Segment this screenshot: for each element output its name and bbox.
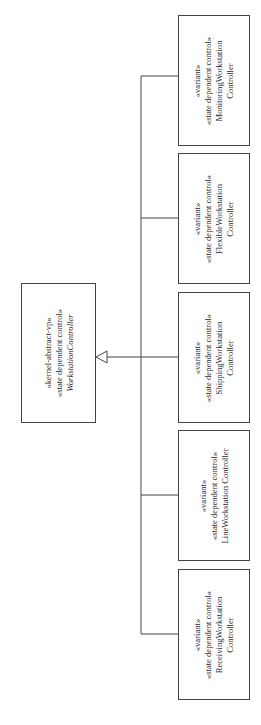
child-class-box-line[interactable]: «variant» «state dependent control» Line… xyxy=(178,430,250,561)
child-stereotype-1: «variant» xyxy=(198,448,209,543)
child-class-name: FlexibleWorkstation xyxy=(214,174,225,262)
child-class-name-cont: Controller xyxy=(225,36,236,124)
child-class-name: ShippingWorkstation xyxy=(214,313,225,401)
child-class-name-cont: Controller xyxy=(225,313,236,401)
child-stereotype-1: «variant» xyxy=(192,313,203,401)
child-class-box-shipping[interactable]: «variant» «state dependent control» Ship… xyxy=(178,292,250,423)
child-stereotype-1: «variant» xyxy=(192,174,203,262)
generalization-arrowhead-icon xyxy=(96,351,107,363)
child-stereotype-1: «variant» xyxy=(192,36,203,124)
child-class-box-receiving[interactable]: «variant» «state dependent control» Rece… xyxy=(178,569,250,700)
parent-class-name: WorkstationController xyxy=(64,309,75,397)
child-stereotype-1: «variant» xyxy=(192,590,203,678)
child-stereotype-2: «state dependent control» xyxy=(209,448,220,543)
child-class-name: LineWorkstation Controller xyxy=(220,448,231,543)
parent-class-box[interactable]: «kernel-abstract-vp» «state dependent co… xyxy=(21,283,96,423)
child-class-name: ReceivingWorkstation xyxy=(214,590,225,678)
child-stereotype-2: «state dependent control» xyxy=(203,36,214,124)
parent-stereotype-2: «state dependent control» xyxy=(53,309,64,397)
child-class-box-monitoring[interactable]: «variant» «state dependent control» Moni… xyxy=(178,15,250,146)
child-class-name-cont: Controller xyxy=(225,174,236,262)
child-class-box-flexible[interactable]: «variant» «state dependent control» Flex… xyxy=(178,153,250,284)
child-class-name-cont: Controller xyxy=(225,590,236,678)
child-stereotype-2: «state dependent control» xyxy=(203,313,214,401)
parent-stereotype-1: «kernel-abstract-vp» xyxy=(42,309,53,397)
child-stereotype-2: «state dependent control» xyxy=(203,590,214,678)
child-stereotype-2: «state dependent control» xyxy=(203,174,214,262)
child-class-name: MonitoringWorkstation xyxy=(214,36,225,124)
